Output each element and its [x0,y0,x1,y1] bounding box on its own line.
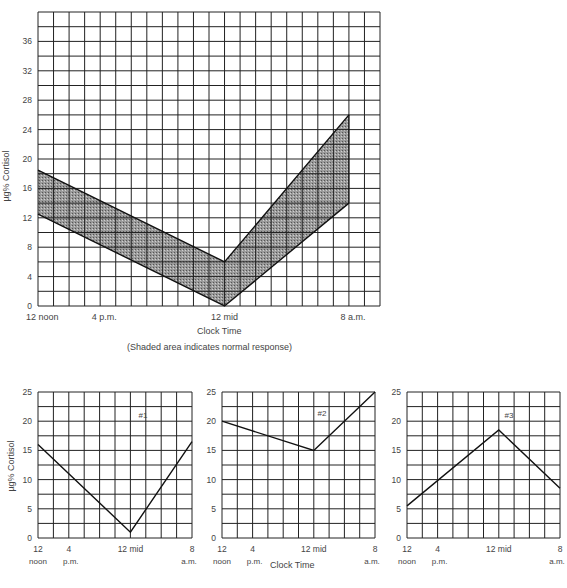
y-tick-label: 28 [23,95,33,105]
x-tick-label: 12 mid [486,544,512,554]
y-tick-label: 32 [23,66,33,76]
chart-title: #1 [139,411,148,420]
y-tick-label: 10 [207,475,217,485]
y-tick-label: 15 [23,445,33,455]
y-tick-label: 25 [23,387,33,397]
x-tick-label: 12 mid [118,544,144,554]
y-tick-label: 4 [27,272,32,282]
x-tick-label: p.m. [247,557,263,566]
chart-title: #2 [318,409,327,418]
x-tick-label: 4 p.m. [92,312,117,322]
small-chart-2: 0510152025#212412 mid8noonp.m.a.m. [207,387,380,566]
y-tick-label: 8 [27,242,32,252]
x-tick-label: 8 [373,544,378,554]
y-tick-label: 36 [23,36,33,46]
x-tick-label: 12 mid [301,544,327,554]
x-tick-label: a.m. [549,557,565,566]
y-tick-label: 0 [396,533,401,543]
cortisol-figure: 0481216202428323612 noon4 p.m.12 mid8 a.… [0,0,567,588]
small-chart-3: 0510152025#312412 mid8noonp.m.a.m. [392,387,565,566]
y-tick-label: 0 [211,533,216,543]
x-tick-label: 8 [190,544,195,554]
y-tick-label: 0 [27,533,32,543]
main-x-label: Clock Time [197,326,242,336]
y-tick-label: 15 [207,445,217,455]
x-tick-label: 12 noon [26,312,59,322]
x-tick-label: 12 mid [211,312,238,322]
y-tick-label: 12 [23,213,33,223]
y-tick-label: 20 [23,416,33,426]
y-tick-label: 0 [27,301,32,311]
y-tick-label: 16 [23,183,33,193]
x-tick-label: noon [213,557,231,566]
small-y-axis-label: µg% Cortisol [6,440,16,491]
x-tick-label: p.m. [432,557,448,566]
x-tick-label: 4 [66,544,71,554]
y-tick-label: 20 [207,416,217,426]
x-tick-label: 12 [217,544,227,554]
x-tick-label: noon [29,557,47,566]
x-tick-label: a.m. [181,557,197,566]
y-tick-label: 20 [23,154,33,164]
y-tick-label: 15 [392,445,402,455]
x-tick-label: 4 [250,544,255,554]
y-axis-label: µg% Cortisol [1,150,11,201]
small-chart-1: 0510152025#112412 mid8noonp.m.a.m. [23,387,197,566]
y-tick-label: 24 [23,125,33,135]
y-tick-label: 10 [23,475,33,485]
main-chart: 0481216202428323612 noon4 p.m.12 mid8 a.… [1,12,380,322]
y-tick-label: 5 [27,504,32,514]
y-tick-label: 5 [211,504,216,514]
x-tick-label: 12 [33,544,43,554]
x-tick-label: noon [398,557,416,566]
chart-title: #3 [505,411,514,420]
main-note: (Shaded area indicates normal response) [127,342,292,352]
x-tick-label: 4 [435,544,440,554]
small-x-label: Clock Time [270,560,315,570]
x-tick-label: p.m. [63,557,79,566]
x-tick-label: 8 a.m. [340,312,365,322]
x-tick-label: 8 [558,544,563,554]
y-tick-label: 25 [392,387,402,397]
y-tick-label: 20 [392,416,402,426]
x-tick-label: a.m. [364,557,380,566]
y-tick-label: 10 [392,475,402,485]
x-tick-label: 12 [402,544,412,554]
y-tick-label: 5 [396,504,401,514]
y-tick-label: 25 [207,387,217,397]
